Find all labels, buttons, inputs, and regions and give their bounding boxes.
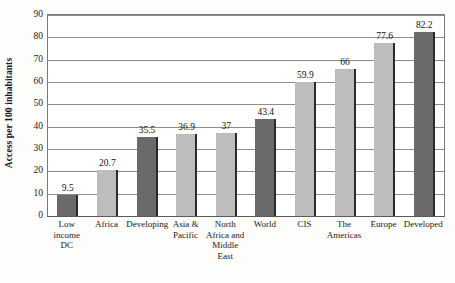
x-axis-category-label: Europe — [364, 219, 404, 230]
bar — [57, 195, 78, 216]
x-axis-category-label: Lowincome DC — [47, 219, 87, 251]
bar-slot: 66 — [335, 15, 356, 216]
y-axis-tick-label: 20 — [34, 165, 44, 175]
x-axis-category-labels: Lowincome DCAfricaDevelopingAsia &Pacifi… — [47, 219, 445, 283]
x-axis-category-label-line: CIS — [285, 219, 325, 230]
bar — [137, 137, 158, 216]
bar-value-label: 77.6 — [376, 31, 393, 41]
bar-value-label: 66 — [340, 57, 350, 67]
x-axis-category-label: Developed — [403, 219, 443, 230]
bar-value-label: 35.5 — [139, 125, 156, 135]
x-axis-category-label: Asia &Pacific — [166, 219, 206, 240]
y-axis-tick-label: 80 — [34, 31, 44, 41]
bar-slot: 59.9 — [295, 15, 316, 216]
x-axis-category-label-line: The — [324, 219, 364, 230]
bar — [255, 119, 276, 216]
bar — [374, 43, 395, 216]
x-axis-category-label-line: Europe — [364, 219, 404, 230]
x-axis-category-label: World — [245, 219, 285, 230]
bar-chart-figure: Access per 100 inhabitants 0102030405060… — [0, 0, 455, 283]
x-axis-category-label-line: Africa — [87, 219, 127, 230]
y-axis-title-text: Access per 100 inhabitants — [4, 57, 14, 167]
bar — [176, 134, 197, 216]
x-axis-category-label: NorthAfrica andMiddleEast — [205, 219, 245, 261]
x-axis-category-label-line: Asia & — [166, 219, 206, 230]
bar-value-label: 82.2 — [416, 20, 433, 30]
y-axis-tick-label: 90 — [34, 9, 44, 19]
y-axis-tick-labels: 0102030405060708090 — [18, 0, 46, 225]
y-axis-tick-label: 60 — [34, 76, 44, 86]
x-axis-category-label-line: Pacific — [166, 230, 206, 241]
y-axis-title: Access per 100 inhabitants — [0, 0, 18, 225]
bar-value-label: 37 — [221, 121, 231, 131]
x-axis-category-label-line: income DC — [47, 230, 87, 251]
x-axis-category-label: TheAmericas — [324, 219, 364, 240]
x-axis-category-label: CIS — [285, 219, 325, 230]
bar — [414, 32, 435, 216]
x-axis-category-label-line: Developing — [126, 219, 166, 230]
bars-layer: 9.520.735.536.93743.459.96677.682.2 — [48, 15, 444, 216]
bar-value-label: 20.7 — [99, 158, 116, 168]
bar-slot: 20.7 — [97, 15, 118, 216]
x-axis-category-label: Developing — [126, 219, 166, 230]
bar — [335, 69, 356, 216]
bar — [295, 82, 316, 216]
bar-value-label: 43.4 — [257, 107, 274, 117]
x-axis-category-label-line: Middle — [205, 240, 245, 251]
y-axis-tick-label: 40 — [34, 121, 44, 131]
y-axis-tick-label: 0 — [38, 210, 43, 220]
x-axis-category-label-line: World — [245, 219, 285, 230]
bar-slot: 35.5 — [137, 15, 158, 216]
bar-slot: 9.5 — [57, 15, 78, 216]
y-axis-tick-label: 50 — [34, 98, 44, 108]
bar-value-label: 59.9 — [297, 70, 314, 80]
bar-value-label: 36.9 — [178, 122, 195, 132]
bar-slot: 77.6 — [374, 15, 395, 216]
bar — [216, 133, 237, 216]
bar-slot: 43.4 — [255, 15, 276, 216]
bar-value-label: 9.5 — [62, 183, 74, 193]
bar-slot: 37 — [216, 15, 237, 216]
x-axis-category-label-line: Africa and — [205, 230, 245, 241]
y-axis-tick-label: 10 — [34, 188, 44, 198]
y-axis-tick-label: 70 — [34, 54, 44, 64]
x-axis-category-label-line: Americas — [324, 230, 364, 241]
x-axis-category-label: Africa — [87, 219, 127, 230]
x-axis-category-label-line: North — [205, 219, 245, 230]
bar-slot: 82.2 — [414, 15, 435, 216]
bar-slot: 36.9 — [176, 15, 197, 216]
x-axis-category-label-line: East — [205, 251, 245, 262]
bar — [97, 170, 118, 216]
plot-area: 9.520.735.536.93743.459.96677.682.2 — [47, 14, 445, 217]
x-axis-category-label-line: Low — [47, 219, 87, 230]
y-axis-tick-label: 30 — [34, 143, 44, 153]
x-axis-category-label-line: Developed — [403, 219, 443, 230]
